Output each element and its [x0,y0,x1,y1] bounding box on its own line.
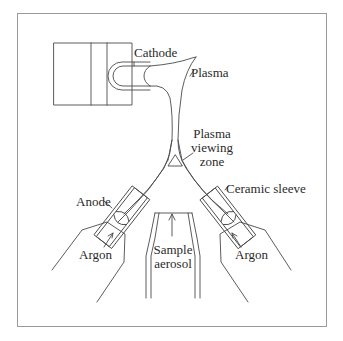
cathode-electrode [108,62,150,90]
label-sample-1: Sample [154,242,193,257]
label-argon-right: Argon [235,247,268,262]
label-anode: Anode [76,194,111,209]
label-sample-2: aerosol [154,256,192,271]
label-viewing-zone-2: viewing [191,140,233,155]
label-viewing-zone-3: zone [200,154,225,169]
label-argon-left: Argon [79,247,112,262]
dcp-diagram: Cathode Plasma Plasma viewing zone Anode… [0,0,343,341]
argon-left-arrow [104,233,113,247]
label-plasma: Plasma [191,65,229,80]
diagram-frame [18,14,327,327]
label-viewing-zone-1: Plasma [193,126,231,141]
left-argon-housing [52,222,125,302]
label-ceramic-sleeve: Ceramic sleeve [226,181,306,196]
label-cathode: Cathode [134,45,178,60]
viewing-zone-marker [168,155,182,166]
argon-right-arrow [232,233,241,247]
cathode-block [54,43,132,105]
